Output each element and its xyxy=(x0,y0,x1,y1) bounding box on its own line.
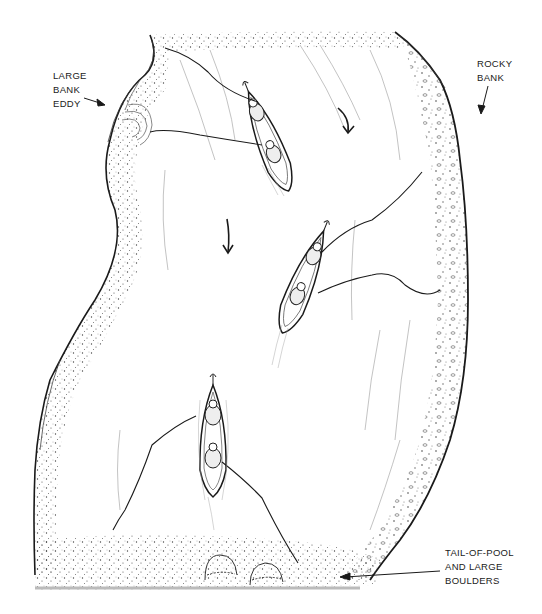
top-gravel xyxy=(150,31,405,52)
label-tail-of-pool: TAIL-OF-POOL AND LARGE BOULDERS xyxy=(445,546,514,588)
fishing-line xyxy=(165,48,258,102)
current-arrow-middle xyxy=(223,219,233,253)
fishing-line xyxy=(150,131,262,145)
label-rocky-bank: ROCKY BANK xyxy=(477,57,512,85)
canoe-lower xyxy=(113,374,298,563)
fishing-line xyxy=(322,172,422,252)
left-bank xyxy=(34,35,169,575)
canoe-middle xyxy=(271,172,440,368)
label-large-bank-eddy: LARGE BANK EDDY xyxy=(53,69,87,111)
current-arrow-upper xyxy=(338,108,354,133)
fishing-line xyxy=(113,416,196,530)
fishing-line xyxy=(318,274,440,294)
canoe-upper xyxy=(150,48,300,196)
right-bank xyxy=(340,32,468,580)
